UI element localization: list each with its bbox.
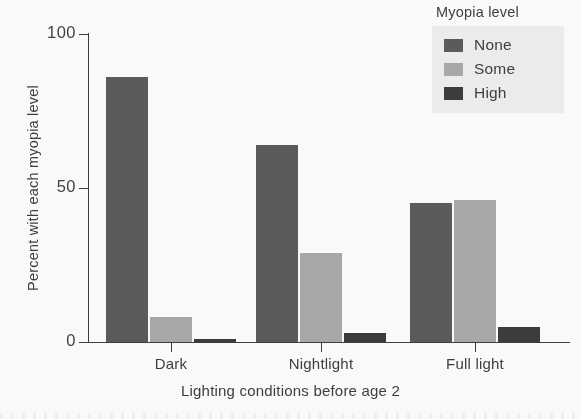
bar-full-light-some bbox=[454, 200, 496, 342]
bar-nightlight-high bbox=[344, 333, 386, 342]
x-tick-nightlight bbox=[321, 343, 322, 352]
x-tick-dark bbox=[171, 343, 172, 352]
bar-dark-none bbox=[106, 77, 148, 342]
bar-nightlight-none bbox=[256, 145, 298, 342]
bar-nightlight-some bbox=[300, 253, 342, 342]
legend-label-high: High bbox=[474, 84, 507, 102]
bar-dark-some bbox=[150, 317, 192, 342]
legend-label-some: Some bbox=[474, 60, 515, 78]
x-axis-line bbox=[88, 342, 570, 343]
legend-item-some: Some bbox=[444, 57, 556, 81]
legend-item-high: High bbox=[444, 81, 556, 105]
legend-swatch-high-icon bbox=[444, 87, 463, 100]
x-tick-label-full-light: Full light bbox=[446, 355, 504, 372]
legend-swatch-some-icon bbox=[444, 63, 463, 76]
legend-swatch-none-icon bbox=[444, 39, 463, 52]
scan-edge-artifact bbox=[0, 413, 581, 419]
myopia-bar-chart-figure: 100 50 0 Percent with each myopia level … bbox=[0, 0, 581, 419]
x-tick-full-light bbox=[475, 343, 476, 352]
y-axis-title: Percent with each myopia level bbox=[25, 38, 41, 338]
legend-title: Myopia level bbox=[436, 4, 519, 20]
bar-full-light-high bbox=[498, 327, 540, 342]
legend-panel: NoneSomeHigh bbox=[432, 26, 564, 113]
x-tick-label-nightlight: Nightlight bbox=[289, 355, 354, 372]
x-axis-title: Lighting conditions before age 2 bbox=[0, 382, 581, 399]
legend-label-none: None bbox=[474, 36, 512, 54]
bar-full-light-none bbox=[410, 203, 452, 342]
legend-item-none: None bbox=[444, 33, 556, 57]
x-tick-label-dark: Dark bbox=[155, 355, 187, 372]
